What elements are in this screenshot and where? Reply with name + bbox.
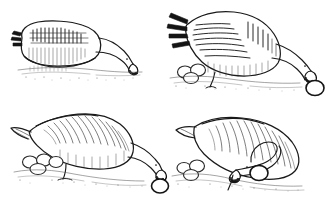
goose-3-eye — [155, 164, 157, 166]
figure-canvas — [0, 0, 331, 202]
egg — [184, 170, 199, 181]
panel-3-region — [0, 101, 165, 202]
goose-egg-rolling-figure: Goose egg-rolling retrieval sequence bro… — [0, 0, 331, 202]
panel-bottom-left — [0, 101, 169, 202]
goose-2-eye — [304, 65, 306, 67]
egg-being-retrieved — [250, 166, 268, 181]
egg — [49, 157, 63, 168]
panel-bottom-right — [165, 101, 331, 202]
panel-1-region — [0, 0, 165, 101]
goose-4-eye — [246, 166, 248, 168]
egg-being-retrieved — [306, 81, 324, 96]
panel-top-left — [0, 0, 165, 101]
panel-top-right — [165, 0, 331, 101]
goose-1-eye — [126, 58, 128, 60]
egg — [30, 164, 46, 175]
panel-4-region — [165, 101, 331, 202]
